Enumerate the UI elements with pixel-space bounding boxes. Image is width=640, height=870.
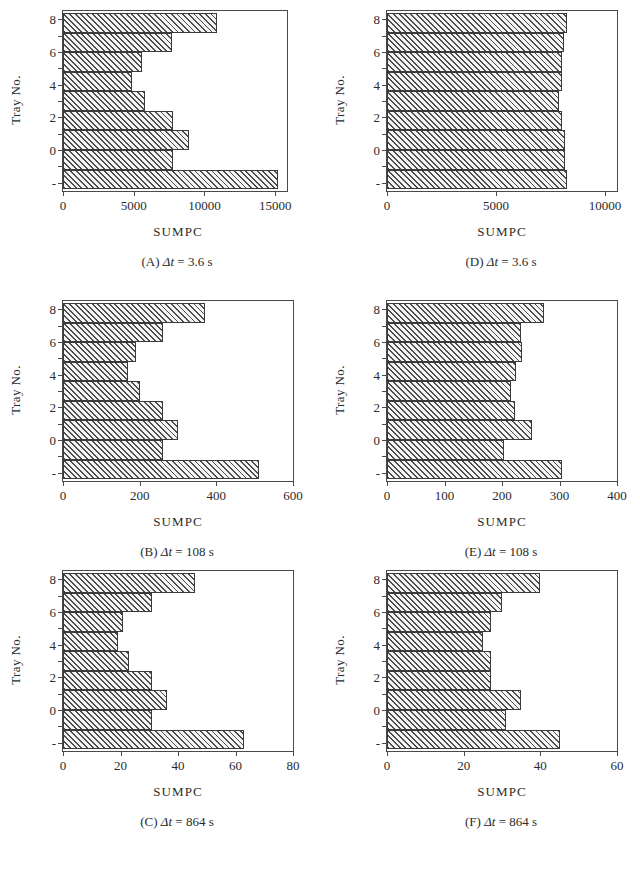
y-axis-label: 0 <box>374 144 381 157</box>
x-axis-tick <box>140 481 141 486</box>
y-axis-tick <box>382 661 387 662</box>
caption-prefix-D: (D) <box>466 254 484 269</box>
x-axis-label: 60 <box>229 759 242 772</box>
x-axis-tick <box>293 481 294 486</box>
caption-prefix-C: (C) <box>140 814 157 829</box>
y-axis-tick <box>58 612 63 613</box>
bar-series <box>63 11 287 191</box>
caption-value-F: = 864 s <box>499 814 537 829</box>
bar <box>387 632 483 652</box>
y-axis-label: 0 <box>50 144 57 157</box>
x-axis-label: 600 <box>283 489 303 502</box>
y-axis-tick <box>58 134 63 135</box>
bar-row <box>63 150 287 170</box>
x-axis-tick <box>216 481 217 486</box>
y-axis-tick <box>382 375 387 376</box>
bar <box>63 690 167 710</box>
bar-row <box>387 401 617 421</box>
y-axis-tick <box>382 440 387 441</box>
y-axis-tick <box>382 391 387 392</box>
bar-row <box>387 612 617 632</box>
y-axis-label: - <box>52 736 56 749</box>
x-axis-tick <box>502 481 503 486</box>
y-axis-tick <box>58 694 63 695</box>
bar-row <box>387 440 617 460</box>
y-axis-tick <box>382 52 387 53</box>
y-axis-tick <box>58 85 63 86</box>
x-axis-tick <box>63 751 64 756</box>
caption-prefix-B: (B) <box>140 544 157 559</box>
caption-value-E: = 108 s <box>499 544 537 559</box>
bar-series <box>387 571 617 751</box>
x-axis-tick <box>540 751 541 756</box>
bar-row <box>387 323 617 343</box>
bar-row <box>63 72 287 92</box>
y-axis-tick <box>58 101 63 102</box>
x-axis-label: 0 <box>60 199 67 212</box>
bar-row <box>387 593 617 613</box>
bar <box>387 651 491 671</box>
y-axis-tick <box>382 36 387 37</box>
x-axis-title-A: SUMPC <box>62 224 294 240</box>
plot-area-E: 86420-0100200300400 <box>386 300 618 482</box>
bar <box>387 420 532 440</box>
plot-area-D: 86420-0500010000 <box>386 10 618 192</box>
bar-row <box>63 593 293 613</box>
x-axis-tick <box>236 751 237 756</box>
bar-row <box>63 303 293 323</box>
y-axis-tick <box>382 424 387 425</box>
y-axis-tick <box>382 134 387 135</box>
bar-row <box>387 420 617 440</box>
x-axis-tick <box>121 751 122 756</box>
bar-row <box>63 632 293 652</box>
y-axis-label: 8 <box>50 573 57 586</box>
bar <box>387 573 540 593</box>
x-axis-label: 60 <box>611 759 624 772</box>
x-axis-label: 200 <box>492 489 512 502</box>
y-axis-label: 8 <box>374 13 381 26</box>
x-axis-tick <box>387 751 388 756</box>
x-axis-label: 400 <box>207 489 227 502</box>
caption-symbol-E: Δt <box>484 544 495 559</box>
y-axis-tick <box>382 101 387 102</box>
bar-row <box>387 362 617 382</box>
y-axis-tick <box>58 645 63 646</box>
y-axis-tick <box>58 342 63 343</box>
bar <box>387 170 567 190</box>
bar-row <box>63 52 287 72</box>
y-axis-tick <box>382 612 387 613</box>
y-axis-tick <box>58 183 63 184</box>
bar <box>387 150 565 170</box>
bar <box>387 323 521 343</box>
y-axis-title-D: Tray No. <box>332 0 348 42</box>
x-axis-tick <box>63 191 64 196</box>
x-axis-label: 10000 <box>188 199 221 212</box>
y-axis-label: 4 <box>374 368 381 381</box>
bar-row <box>63 130 287 150</box>
y-axis-label: 0 <box>50 704 57 717</box>
y-axis-label: - <box>52 466 56 479</box>
y-axis-tick <box>382 596 387 597</box>
bar <box>63 651 129 671</box>
caption-symbol-F: Δt <box>484 814 495 829</box>
y-axis-tick <box>382 473 387 474</box>
y-axis-label: 6 <box>50 335 57 348</box>
caption-value-B: = 108 s <box>175 544 213 559</box>
y-axis-tick <box>58 473 63 474</box>
plot-area-F: 86420-0204060 <box>386 570 618 752</box>
y-axis-tick <box>382 710 387 711</box>
y-axis-tick <box>58 726 63 727</box>
x-axis-tick <box>387 191 388 196</box>
y-axis-title-F: Tray No. <box>332 482 348 602</box>
y-axis-tick <box>382 183 387 184</box>
bar-row <box>387 52 617 72</box>
bar <box>387 460 562 480</box>
bar <box>63 460 259 480</box>
bar <box>63 170 278 190</box>
bar-row <box>63 91 287 111</box>
bar-row <box>63 730 293 750</box>
y-axis-tick <box>58 407 63 408</box>
caption-symbol-B: Δt <box>161 544 172 559</box>
bar-row <box>63 440 293 460</box>
y-axis-label: 8 <box>50 303 57 316</box>
